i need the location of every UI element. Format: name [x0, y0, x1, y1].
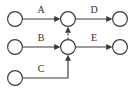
node-top-middle[interactable]	[61, 12, 76, 27]
edge-b-label: B	[38, 32, 45, 43]
edge-c-arrowhead	[65, 54, 71, 60]
edge-c-line	[22, 59, 68, 78]
edge-e-arrowhead	[106, 44, 112, 50]
edge-c-label: C	[38, 63, 45, 74]
node-mid-middle[interactable]	[61, 40, 76, 55]
edge-dashed-arrowhead	[65, 26, 71, 32]
node-top-left[interactable]	[8, 12, 23, 27]
edge-e: E	[75, 32, 112, 50]
edge-a-arrowhead	[54, 16, 60, 22]
edge-e-label: E	[91, 32, 97, 43]
edge-b-arrowhead	[54, 44, 60, 50]
edge-a: A	[22, 4, 60, 22]
edge-b: B	[22, 32, 60, 50]
node-mid-left[interactable]	[8, 40, 23, 55]
edge-dashed-mid-to-top	[65, 26, 71, 39]
diagram-canvas: A D B E C	[0, 0, 135, 93]
edge-a-label: A	[37, 4, 45, 15]
edge-c: C	[22, 54, 71, 78]
node-bottom-left[interactable]	[8, 71, 23, 86]
edge-d-arrowhead	[106, 16, 112, 22]
edge-d: D	[75, 4, 112, 22]
node-mid-right[interactable]	[113, 40, 128, 55]
flow-diagram: A D B E C	[0, 0, 135, 93]
node-top-right[interactable]	[113, 12, 128, 27]
edge-d-label: D	[90, 4, 97, 15]
